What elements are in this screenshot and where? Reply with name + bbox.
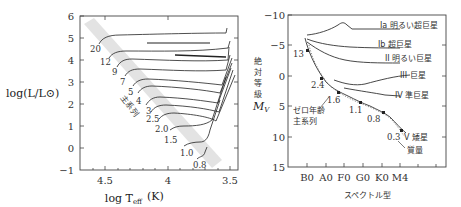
right-ytick-minus10: −10 — [264, 10, 285, 21]
track-label-5: 5 — [128, 87, 133, 97]
mass-label-0.8: 0.8 — [367, 114, 381, 124]
right-y-axis-label: 絶 対 等 級 MV — [252, 56, 270, 114]
left-ytick-6: 6 — [68, 11, 74, 22]
track-label-4: 4 — [136, 96, 141, 106]
track-label-12: 12 — [100, 57, 111, 67]
left-ytick-1: 1 — [68, 121, 74, 132]
right-ytick-10: 10 — [272, 132, 285, 143]
svg-text:対: 対 — [254, 67, 262, 77]
left-ytick-0: 0 — [68, 143, 74, 154]
right-xtick-F0: F0 — [337, 172, 350, 183]
svg-text:MV: MV — [252, 100, 270, 114]
right-xtick-M4: M4 — [392, 172, 409, 183]
chart-canvas: 6 5 4 3 2 1 0 −1 4.5 4 3.5 log(L/L⊙) log… — [0, 0, 461, 207]
mass-note: 質量 — [407, 145, 423, 155]
mass-label-0.3: 0.3 — [387, 132, 401, 142]
right-xtick-G0: G0 — [356, 172, 370, 183]
right-ytick-15: 15 — [272, 162, 285, 173]
track-label-2.0: 2.0 — [155, 124, 169, 134]
left-ytick-3: 3 — [68, 77, 74, 88]
zams-label-line1: ゼロ年齢 — [293, 105, 325, 115]
left-y-axis-label: log(L/L⊙) — [6, 87, 59, 100]
class-label-III: III 巨星 — [400, 71, 426, 80]
mass-label-1.6: 1.6 — [327, 95, 341, 105]
track-label-0.8: 0.8 — [193, 160, 207, 170]
left-ytick-4: 4 — [68, 55, 74, 66]
right-xtick-A0: A0 — [318, 172, 333, 183]
mass-label-2.4: 2.4 — [311, 80, 325, 90]
left-x-axis-label: log Teff — [105, 192, 143, 206]
track-label-1.5: 1.5 — [164, 135, 178, 145]
track-label-20: 20 — [90, 44, 101, 54]
right-xtick-B0: B0 — [300, 172, 314, 183]
right-xtick-K0: K0 — [375, 172, 389, 183]
left-x-axis-unit: (K) — [147, 190, 164, 203]
svg-text:絶: 絶 — [254, 56, 262, 66]
curve-III — [334, 75, 410, 85]
mass-label-1.1: 1.1 — [349, 105, 363, 115]
class-label-Ib: Ib 超巨星 — [378, 39, 412, 49]
left-chart: 6 5 4 3 2 1 0 −1 4.5 4 3.5 log(L/L⊙) log… — [6, 11, 238, 206]
left-xtick-4: 4 — [165, 175, 171, 186]
main-sequence-band — [84, 18, 222, 168]
class-label-V: V 矮星 — [404, 132, 428, 142]
class-label-II: II 明るい巨星 — [385, 54, 432, 63]
left-ytick-2: 2 — [68, 99, 74, 110]
right-ytick-minus5: −5 — [270, 40, 285, 51]
right-ytick-5: 5 — [279, 101, 285, 112]
mass-label-13: 13 — [293, 49, 304, 59]
left-ytick-5: 5 — [68, 33, 74, 44]
class-label-Ia: Ia 明るい超巨星 — [380, 20, 438, 30]
class-label-IV: IV 準巨星 — [395, 90, 429, 100]
left-ytick-minus1: −1 — [59, 165, 74, 176]
curve-IV — [344, 88, 400, 96]
track-label-2.5: 2.5 — [146, 114, 160, 124]
track-label-9: 9 — [112, 67, 117, 77]
left-xtick-4.5: 4.5 — [97, 175, 113, 186]
track-label-7: 7 — [120, 77, 125, 87]
mass-note-arrow — [398, 141, 405, 148]
left-xtick-3.5: 3.5 — [222, 175, 238, 186]
svg-text:級: 級 — [254, 89, 262, 99]
right-x-axis-label: スペクトル型 — [344, 191, 391, 200]
track-label-1.0: 1.0 — [180, 148, 194, 158]
right-ytick-0: 0 — [279, 71, 285, 82]
right-chart: −10 −5 0 5 10 15 B0 A0 F0 G0 K0 M4 スペクトル… — [252, 10, 446, 200]
zams-label-line2: 主系列 — [293, 116, 317, 126]
svg-text:等: 等 — [254, 78, 262, 88]
